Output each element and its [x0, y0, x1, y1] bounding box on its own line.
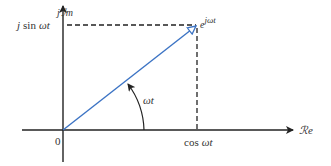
phasor-vector	[63, 26, 196, 130]
real-axis-label: ℛe	[299, 124, 313, 136]
angle-label: ωt	[143, 94, 155, 106]
cos-label: cosωt	[184, 136, 213, 148]
vector-label: ejωt	[200, 15, 216, 30]
origin-label: 0	[55, 135, 61, 147]
sin-label: jsinωt	[15, 19, 51, 31]
imaginary-axis-label: jℐm	[55, 7, 73, 18]
angle-arc	[128, 84, 144, 130]
phasor-diagram: jℐm jsinωt ejωt ωt 0 cosωt ℛe	[0, 0, 331, 166]
